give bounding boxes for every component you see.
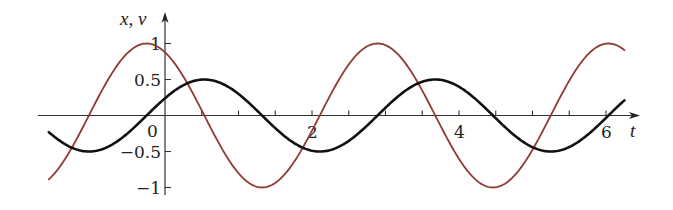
x-axis: 246 bbox=[38, 111, 640, 142]
chart: 246 10.5−0.5−1 x, v t 0 bbox=[0, 0, 673, 210]
y-axis-label: x, v bbox=[119, 8, 147, 29]
x-tick-label: 4 bbox=[454, 122, 465, 142]
origin-label: 0 bbox=[147, 121, 158, 141]
y-tick-label: −0.5 bbox=[120, 142, 161, 162]
y-axis: 10.5−0.5−1 bbox=[120, 12, 171, 198]
labels-layer: x, v t 0 bbox=[119, 8, 636, 141]
x-tick-label: 6 bbox=[601, 122, 612, 142]
x-axis-label: t bbox=[630, 120, 636, 141]
y-tick-label: 0.5 bbox=[134, 70, 161, 90]
y-tick-label: −1 bbox=[136, 178, 161, 198]
